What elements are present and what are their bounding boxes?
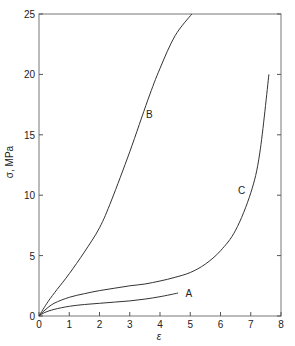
x-tick-label: 3 (127, 319, 133, 330)
plot-frame (39, 14, 281, 316)
stress-strain-chart: 0510152025 012345678 ABC ε σ, MPa (0, 0, 295, 346)
x-tick-label: 4 (157, 319, 163, 330)
curve-label-c: C (238, 185, 245, 196)
x-tick-label: 7 (248, 319, 254, 330)
y-tick-label: 25 (24, 9, 36, 20)
y-axis-ticks: 0510152025 (24, 9, 281, 322)
y-tick-label: 0 (29, 311, 35, 322)
x-axis-label: ε (157, 331, 162, 342)
curve-label-b: B (146, 109, 153, 120)
curves: ABC (39, 14, 269, 316)
curve-b (39, 14, 192, 316)
x-tick-label: 8 (278, 319, 284, 330)
curve-a (39, 293, 178, 316)
y-tick-label: 5 (29, 251, 35, 262)
curve-c (39, 74, 269, 316)
x-axis-ticks: 012345678 (36, 312, 284, 330)
plot-area-border (39, 14, 281, 316)
x-tick-label: 1 (66, 319, 72, 330)
y-tick-label: 15 (24, 130, 36, 141)
x-tick-label: 5 (187, 319, 193, 330)
x-tick-label: 2 (97, 319, 103, 330)
y-tick-label: 10 (24, 190, 36, 201)
y-tick-label: 20 (24, 69, 36, 80)
curve-label-a: A (185, 288, 192, 299)
y-axis-label: σ, MPa (4, 145, 15, 178)
x-tick-label: 6 (218, 319, 224, 330)
x-tick-label: 0 (36, 319, 42, 330)
